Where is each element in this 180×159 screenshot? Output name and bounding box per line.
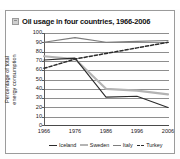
chart-title-row: Oil usage in four countries, 1966-2006 xyxy=(12,16,172,27)
legend-label: Iceland xyxy=(59,142,76,148)
legend-item-iceland: Iceland xyxy=(49,142,76,148)
chart-legend: IcelandSwedenItalyTurkey xyxy=(36,140,176,150)
plot-wrapper xyxy=(44,33,168,126)
x-axis-tick-label: 1966 xyxy=(38,128,50,134)
x-axis-tick-label: 2006 xyxy=(162,128,174,134)
series-line-italy xyxy=(44,38,168,43)
chart-title: Oil usage in four countries, 1966-2006 xyxy=(22,17,150,26)
y-axis-tick-labels: 0102030405060708090100 xyxy=(22,33,42,128)
y-axis-title-line1: Percentage of total xyxy=(4,33,11,126)
legend-label: Sweden xyxy=(90,142,109,148)
series-line-iceland xyxy=(44,58,168,107)
page-top-margin xyxy=(0,0,180,9)
y-axis-tick-label: 100 xyxy=(33,30,42,36)
legend-item-italy: Italy xyxy=(113,142,132,148)
legend-item-turkey: Turkey xyxy=(137,142,163,148)
legend-item-sweden: Sweden xyxy=(80,142,109,148)
x-axis-tick-label: 1996 xyxy=(131,128,143,134)
series-line-turkey xyxy=(44,42,168,68)
x-axis-tick-labels: 19661976198619962006 xyxy=(44,128,172,137)
x-axis-tick-label: 1976 xyxy=(69,128,81,134)
legend-label: Turkey xyxy=(146,142,162,148)
y-axis-title-line2: energy consumption xyxy=(11,33,18,126)
data-lines xyxy=(44,33,168,126)
image-placeholder-icon xyxy=(12,18,19,25)
chart-figure: Oil usage in four countries, 1966-2006 P… xyxy=(0,0,180,159)
legend-swatch-icon xyxy=(49,143,57,148)
x-axis-tick-label: 1986 xyxy=(100,128,112,134)
legend-label: Italy xyxy=(123,142,133,148)
y-axis-title: Percentage of total energy consumption xyxy=(0,0,9,33)
legend-swatch-icon xyxy=(113,143,121,148)
legend-swatch-icon xyxy=(80,143,88,148)
series-line-sweden xyxy=(44,56,168,94)
legend-swatch-icon xyxy=(137,143,145,148)
